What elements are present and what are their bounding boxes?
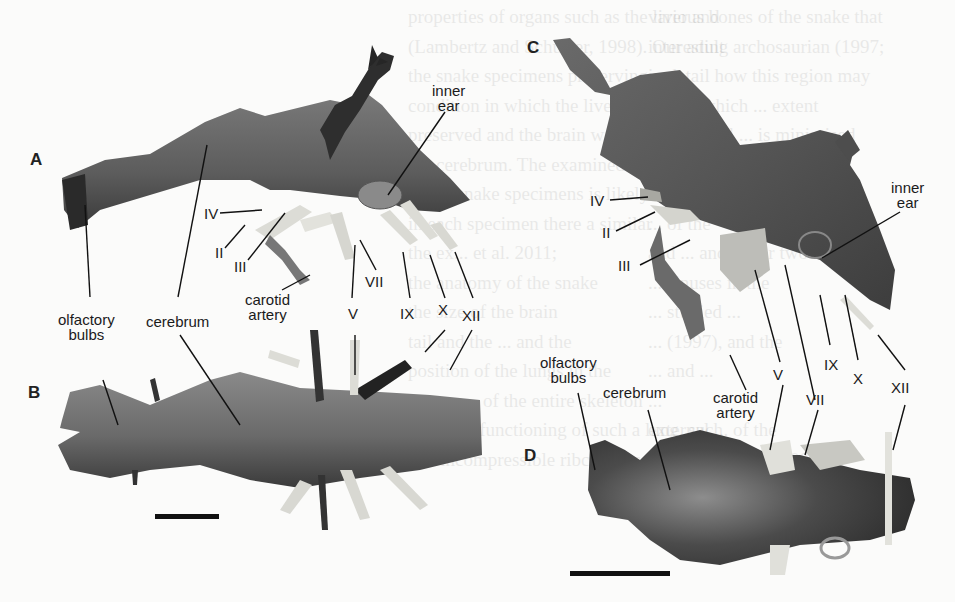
figure-artwork	[0, 0, 955, 602]
label-nerve-iii-a: III	[234, 259, 247, 274]
panel-letter-a: A	[30, 150, 42, 170]
panel-letter-c: C	[527, 38, 539, 58]
panel-b-endocast	[58, 330, 482, 530]
label-olfactory-bulbs-ab: olfactory bulbs	[58, 312, 115, 342]
label-nerve-x-a: X	[438, 302, 448, 317]
label-nerve-ii-c: II	[602, 225, 610, 240]
label-inner-ear-c: inner ear	[891, 180, 924, 210]
label-nerve-ix-a: IX	[400, 306, 414, 321]
label-cerebrum-cd: cerebrum	[603, 385, 666, 400]
label-inner-ear-a: inner ear	[432, 83, 465, 113]
label-carotid-artery-cd: carotid artery	[713, 390, 758, 420]
scale-bar-b	[155, 514, 219, 519]
label-olfactory-bulbs-cd: olfactory bulbs	[540, 355, 597, 385]
label-nerve-xii-a: XII	[462, 308, 480, 323]
label-nerve-x-c: X	[853, 371, 863, 386]
panel-letter-b: B	[28, 383, 40, 403]
label-nerve-iii-c: III	[618, 258, 631, 273]
panel-d-endocast	[588, 430, 915, 575]
label-nerve-iv-c: IV	[590, 193, 604, 208]
label-nerve-vii-c: VII	[806, 392, 824, 407]
label-nerve-ii-a: II	[215, 245, 223, 260]
label-nerve-vii-a: VII	[365, 274, 383, 289]
label-nerve-v-c: V	[773, 367, 783, 382]
label-nerve-v-a: V	[348, 306, 358, 321]
label-cerebrum-ab: cerebrum	[146, 314, 209, 329]
label-carotid-artery-a: carotid artery	[245, 292, 290, 322]
label-nerve-xii-c: XII	[891, 380, 909, 395]
label-nerve-ix-c: IX	[824, 357, 838, 372]
label-nerve-iv-a: IV	[204, 206, 218, 221]
scale-bar-d	[570, 571, 670, 576]
panel-c-endocast	[553, 38, 895, 340]
panel-letter-d: D	[524, 446, 536, 466]
